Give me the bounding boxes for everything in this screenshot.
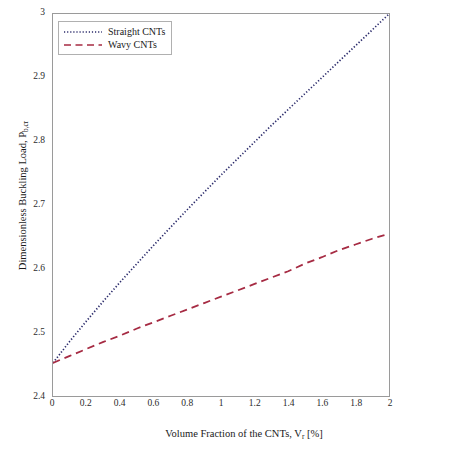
- x-tick-label: 1.8: [350, 399, 362, 409]
- plot-area: [52, 13, 390, 397]
- x-tick-label: 0: [50, 399, 55, 409]
- x-axis-title-suffix: [%]: [304, 428, 322, 439]
- chart-figure: Dimensionless Buckling Load, Pb,cr Volum…: [0, 0, 454, 456]
- y-tick-label: 3: [40, 8, 45, 18]
- x-tick-label: 0.6: [147, 399, 159, 409]
- y-tick-label: 2.4: [33, 392, 45, 402]
- chart-legend: Straight CNTs Wavy CNTs: [58, 21, 172, 55]
- x-tick-label: 0.4: [114, 399, 126, 409]
- series-line-wavy-cnts: [53, 234, 389, 363]
- y-tick-label: 2.8: [33, 136, 45, 146]
- y-axis-title-text: Dimensionless Buckling Load, P: [17, 132, 28, 270]
- x-tick-label: 1: [219, 399, 224, 409]
- legend-line-dotted-icon: [63, 26, 103, 38]
- legend-label-wavy-cnts: Wavy CNTs: [108, 39, 157, 51]
- x-axis-title-text: Volume Fraction of the CNTs, V: [165, 428, 302, 439]
- y-tick-label: 2.6: [33, 264, 45, 274]
- x-tick-label: 2: [388, 399, 393, 409]
- x-axis-title-subscript: r: [302, 433, 304, 441]
- x-axis-title: Volume Fraction of the CNTs, Vr [%]: [0, 428, 454, 439]
- x-tick-label: 1.6: [316, 399, 328, 409]
- y-axis-title-subscript: b,cr: [22, 121, 30, 132]
- legend-line-dashed-icon: [63, 39, 103, 51]
- y-tick-label: 2.5: [33, 328, 45, 338]
- x-tick-label: 1.2: [249, 399, 261, 409]
- x-tick-label: 0.8: [181, 399, 193, 409]
- legend-item-straight-cnts: Straight CNTs: [63, 25, 165, 38]
- y-tick-label: 2.7: [33, 200, 45, 210]
- x-tick-label: 0.2: [80, 399, 92, 409]
- y-tick-label: 2.9: [33, 72, 45, 82]
- series-line-straight-cnts: [53, 14, 389, 363]
- y-axis-title: Dimensionless Buckling Load, Pb,cr: [17, 96, 28, 296]
- plot-canvas: [53, 14, 389, 396]
- legend-label-straight-cnts: Straight CNTs: [108, 26, 165, 38]
- legend-item-wavy-cnts: Wavy CNTs: [63, 38, 165, 51]
- x-tick-label: 1.4: [283, 399, 295, 409]
